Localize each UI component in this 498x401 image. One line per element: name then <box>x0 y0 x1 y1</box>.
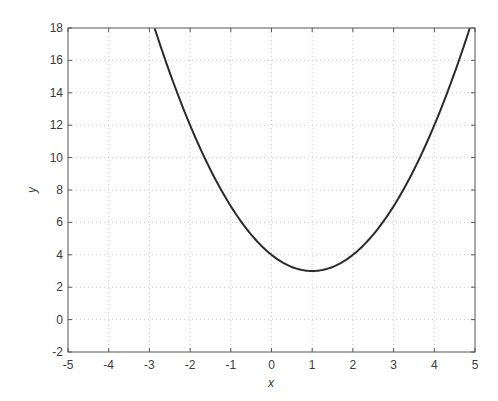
y-tick-label: 18 <box>50 21 64 35</box>
x-tick-label: 3 <box>390 358 397 372</box>
x-tick-label: -1 <box>225 358 236 372</box>
y-tick-label: 0 <box>56 313 63 327</box>
x-tick-label: -3 <box>144 358 155 372</box>
y-tick-label: 14 <box>50 86 64 100</box>
y-tick-label: 6 <box>56 215 63 229</box>
y-tick-label: 8 <box>56 183 63 197</box>
y-tick-label: 2 <box>56 280 63 294</box>
x-axis-label: x <box>267 376 275 390</box>
x-tick-label: 2 <box>350 358 357 372</box>
y-axis-label: y <box>25 186 39 194</box>
x-tick-label: -4 <box>103 358 114 372</box>
x-tick-label: 1 <box>309 358 316 372</box>
y-tick-label: 12 <box>50 118 64 132</box>
x-tick-label: 5 <box>472 358 479 372</box>
x-tick-label: -5 <box>63 358 74 372</box>
y-tick-label: -2 <box>52 345 63 359</box>
y-tick-label: 10 <box>50 151 64 165</box>
y-tick-label: 4 <box>56 248 63 262</box>
x-tick-label: 0 <box>268 358 275 372</box>
x-tick-label: -2 <box>185 358 196 372</box>
y-tick-label: 16 <box>50 53 64 67</box>
line-chart: -5-4-3-2-1012345 -2024681012141618 x y <box>0 0 498 401</box>
x-tick-label: 4 <box>431 358 438 372</box>
